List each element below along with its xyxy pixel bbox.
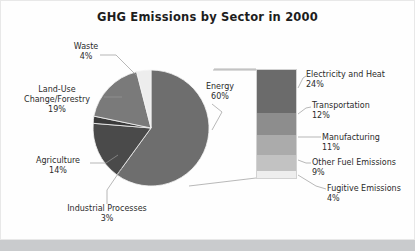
breakout-label-fugitive-emissions: Fugitive Emissions 4%: [327, 184, 411, 204]
breakout-label-fugitive-pct: 4%: [327, 194, 411, 204]
bar-segment-transportation[interactable]: [257, 113, 296, 135]
pie-label-agriculture-pct: 14%: [18, 166, 98, 176]
pie-label-agriculture: Agriculture 14%: [18, 156, 98, 176]
pie-label-agriculture-name: Agriculture: [36, 156, 80, 165]
pie-chart: [92, 69, 210, 187]
pie-label-landuse-name: Land-Use: [38, 85, 75, 94]
pie-label-waste: Waste 4%: [56, 42, 116, 62]
breakout-label-fugitive-name: Fugitive Emissions: [327, 184, 401, 193]
pie-label-landuse-pct: 19%: [8, 105, 106, 115]
pie-label-land-use-change-forestry: Land-Use Change/Forestry 19%: [8, 85, 106, 115]
chart-canvas: GHG Emissions by Sector in 2000: [0, 0, 415, 251]
breakout-label-electricity-and-heat: Electricity and Heat 24%: [306, 70, 410, 90]
pie-label-industrial-processes: Industrial Processes 3%: [52, 204, 162, 224]
breakout-label-trans-name: Transportation: [312, 101, 370, 110]
energy-breakout-bar: [256, 69, 297, 179]
breakout-label-manu-pct: 11%: [322, 143, 410, 153]
bar-segment-fugitive-emissions[interactable]: [257, 171, 296, 178]
bar-segment-other-fuel-emissions[interactable]: [257, 155, 296, 171]
pie-label-landuse-name2: Change/Forestry: [8, 95, 106, 105]
pie-label-waste-pct: 4%: [56, 52, 116, 62]
breakout-label-elec-name: Electricity and Heat: [306, 70, 385, 79]
breakout-label-otherfuel-pct: 9%: [312, 168, 410, 178]
pie-label-industrial-processes-name: Industrial Processes: [67, 204, 147, 213]
bottom-band: [0, 240, 415, 251]
pie-label-energy: Energy 60%: [196, 82, 244, 102]
breakout-label-transportation: Transportation 12%: [312, 101, 410, 121]
breakout-label-manufacturing: Manufacturing 11%: [322, 133, 410, 153]
pie-label-energy-name: Energy: [206, 82, 234, 91]
breakout-label-manu-name: Manufacturing: [322, 133, 380, 142]
pie-label-waste-name: Waste: [74, 42, 99, 51]
pie-label-energy-pct: 60%: [196, 92, 244, 102]
chart-title: GHG Emissions by Sector in 2000: [0, 10, 415, 24]
bar-segment-electricity-and-heat[interactable]: [257, 70, 296, 113]
breakout-label-otherfuel-name: Other Fuel Emissions: [312, 158, 396, 167]
breakout-label-elec-pct: 24%: [306, 80, 410, 90]
pie-label-industrial-processes-pct: 3%: [52, 214, 162, 224]
bar-segment-manufacturing[interactable]: [257, 135, 296, 155]
breakout-label-trans-pct: 12%: [312, 111, 410, 121]
breakout-label-other-fuel-emissions: Other Fuel Emissions 9%: [312, 158, 410, 178]
pie-svg: [92, 69, 210, 187]
